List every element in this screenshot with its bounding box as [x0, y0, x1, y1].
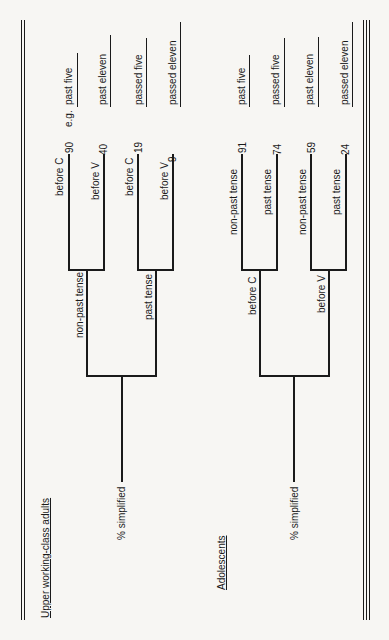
level1-branch-0: [259, 270, 261, 377]
example-1: passed five: [270, 54, 282, 105]
leaf-value-3: 24: [340, 144, 352, 155]
root-label: % simplified: [289, 487, 301, 540]
level1-bracket: [259, 375, 330, 377]
root-label: % simplified: [116, 487, 128, 540]
left-border-line-1: [21, 20, 22, 620]
example-underline-1: [110, 35, 111, 107]
leaf-value-1: 40: [98, 144, 110, 155]
leaf-line-3: [345, 154, 347, 271]
leaf-value-2: 19: [133, 142, 145, 153]
leaf-line-0: [241, 154, 243, 271]
level2-bracket-1: [310, 269, 347, 271]
example-3: passed eleven: [339, 41, 351, 106]
leaf-value-1: 74: [272, 144, 284, 155]
example-underline-3: [180, 22, 181, 107]
leaf-label-0: non-past tense: [228, 169, 240, 235]
example-prefix: e.g.: [63, 110, 75, 127]
leaf-line-0: [68, 154, 70, 271]
level1-branch-1: [328, 270, 330, 377]
level1-bracket: [86, 375, 157, 377]
example-2: passed five: [133, 54, 145, 105]
leaf-value-0: 91: [237, 142, 249, 153]
example-underline-2: [146, 38, 147, 107]
left-border-line-2: [24, 20, 25, 620]
leaf-value-0: 90: [64, 142, 76, 153]
level2-bracket-0: [241, 269, 278, 271]
level1-branch-0: [86, 270, 88, 377]
example-3: passed eleven: [167, 41, 179, 106]
leaf-label-3: past tense: [331, 169, 343, 215]
right-border-line-3: [369, 20, 370, 620]
example-underline-0: [249, 55, 250, 107]
leaf-line-2: [310, 154, 312, 271]
leaf-label-1: past tense: [262, 169, 274, 215]
leaf-label-0: before C: [54, 158, 66, 196]
right-border-line-2: [366, 20, 367, 620]
level2-bracket-1: [137, 269, 174, 271]
group-title: Adolescents: [216, 536, 228, 590]
level2-bracket-0: [68, 269, 105, 271]
leaf-value-2: 59: [306, 142, 318, 153]
root-stem: [121, 376, 123, 482]
example-underline-2: [318, 37, 319, 107]
leaf-label-1: before V: [90, 162, 102, 200]
level1-branch-1: [155, 270, 157, 377]
leaf-line-1: [276, 154, 278, 271]
example-0: past five: [236, 68, 248, 105]
right-border-line-1: [363, 20, 364, 620]
group-title: Upper working-class adults: [40, 498, 52, 618]
leaf-line-3: [172, 154, 174, 271]
root-stem: [293, 375, 295, 482]
example-underline-3: [352, 22, 353, 107]
example-underline-0: [77, 53, 78, 107]
example-0: past five: [63, 68, 75, 105]
leaf-label-2: before C: [124, 158, 136, 196]
leaf-label-3: before V: [159, 162, 171, 200]
leaf-value-3: 9: [167, 156, 179, 162]
level1-label-1: before V: [316, 275, 328, 313]
leaf-label-2: non-past tense: [297, 169, 309, 235]
level1-label-0: non-past tense: [74, 272, 86, 338]
level1-label-0: before C: [247, 277, 259, 315]
example-1: past eleven: [97, 54, 109, 105]
level1-label-1: past tense: [143, 274, 155, 320]
leaf-line-1: [103, 154, 105, 271]
example-underline-1: [284, 38, 285, 107]
example-2: past eleven: [304, 54, 316, 105]
leaf-line-2: [137, 154, 139, 271]
